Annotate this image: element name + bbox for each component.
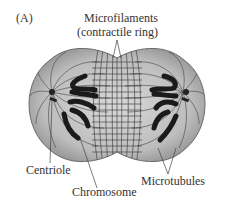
centriole-right [183,89,189,95]
label-centriole: Centriole [26,164,71,177]
label-microtubules: Microtubules [141,175,205,188]
label-microfilaments: Microfilaments [84,12,158,25]
panel-label: (A) [16,12,33,25]
label-chromosome: Chromosome [72,186,137,199]
centriole-left [49,89,55,95]
label-contractile-ring: (contractile ring) [77,26,158,39]
